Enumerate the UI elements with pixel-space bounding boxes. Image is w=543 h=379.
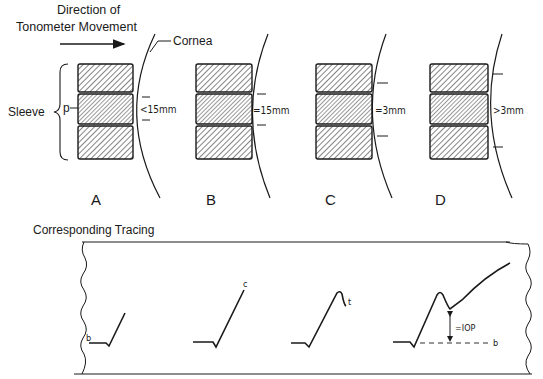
measurement-d: >3mm — [493, 105, 524, 116]
title-line-1: Direction of — [57, 3, 121, 17]
plunger-block — [78, 94, 133, 124]
cornea-label: Cornea — [173, 34, 213, 48]
plunger-block — [196, 94, 252, 124]
tonometer-diagram: Direction of Tonometer Movement Cornea S… — [0, 0, 543, 379]
sleeve-block-bottom — [78, 126, 133, 159]
title-line-2: Tonometer Movement — [16, 20, 137, 34]
panel-letter-c: C — [325, 191, 336, 208]
tracing-curve — [193, 290, 244, 347]
sleeve-block-top — [196, 64, 252, 92]
tracing-label-c: c — [243, 279, 247, 289]
sleeve-block-top — [316, 64, 372, 92]
sleeve-block-bottom — [316, 126, 372, 159]
tracing-b: c — [193, 279, 247, 347]
panel-letter-b: B — [206, 191, 216, 208]
measurement-c: =3mm — [375, 105, 406, 116]
torn-edge-left — [81, 242, 87, 374]
panel-c: =3mm C — [316, 34, 406, 208]
sleeve-block-bottom — [430, 126, 488, 159]
cornea-arc — [372, 34, 392, 198]
torn-edge-right — [506, 242, 531, 374]
tracing-a: b — [86, 313, 125, 346]
sleeve-block-top — [78, 64, 133, 92]
panel-letter-a: A — [91, 191, 101, 208]
tracing-paper — [74, 242, 532, 374]
tracing-curve — [393, 263, 510, 347]
plunger-block — [316, 94, 372, 124]
tracing-c: t — [291, 292, 351, 347]
measurement-b: =15mm — [253, 105, 290, 116]
tracing-label-b: b — [86, 333, 91, 343]
sleeve-label: Sleeve — [8, 105, 45, 119]
tracing-d: =IOP b — [393, 263, 510, 348]
tracing-label-t: t — [348, 297, 351, 307]
sleeve-block-top — [430, 64, 488, 92]
panel-b: =15mm B — [196, 34, 290, 208]
measurement-a: <15mm — [140, 104, 177, 115]
plunger-block — [430, 94, 488, 124]
panel-a: <15mm A — [78, 34, 177, 208]
cornea-arc — [137, 34, 160, 198]
probe-label: p — [63, 101, 70, 115]
cornea-arc — [491, 34, 512, 198]
tracing-label-b-baseline: b — [493, 338, 498, 348]
sleeve-block-bottom — [196, 126, 252, 159]
panel-d: >3mm D — [430, 34, 524, 208]
panel-letter-d: D — [435, 191, 446, 208]
iop-annotation: =IOP — [455, 323, 476, 333]
cornea-arc — [252, 34, 270, 198]
tracing-heading: Corresponding Tracing — [33, 223, 154, 237]
tracing-curve — [291, 292, 346, 347]
tracing-curve — [89, 313, 125, 346]
